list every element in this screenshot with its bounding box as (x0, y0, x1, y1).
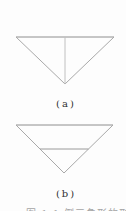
triangle-a-left-edge (16, 37, 65, 84)
subfigure-label-a: (a) (0, 98, 126, 109)
triangle-a-right-edge (65, 37, 114, 84)
clipped-caption-text: 图 1.1 倒三角形的形状 (26, 205, 126, 211)
subfigure-label-b: (b) (0, 188, 126, 199)
subfigure-a (16, 37, 114, 84)
subfigure-b (16, 125, 113, 173)
scanned-figure-page: (a) (b) 图 1.1 倒三角形的形状 (0, 0, 126, 211)
